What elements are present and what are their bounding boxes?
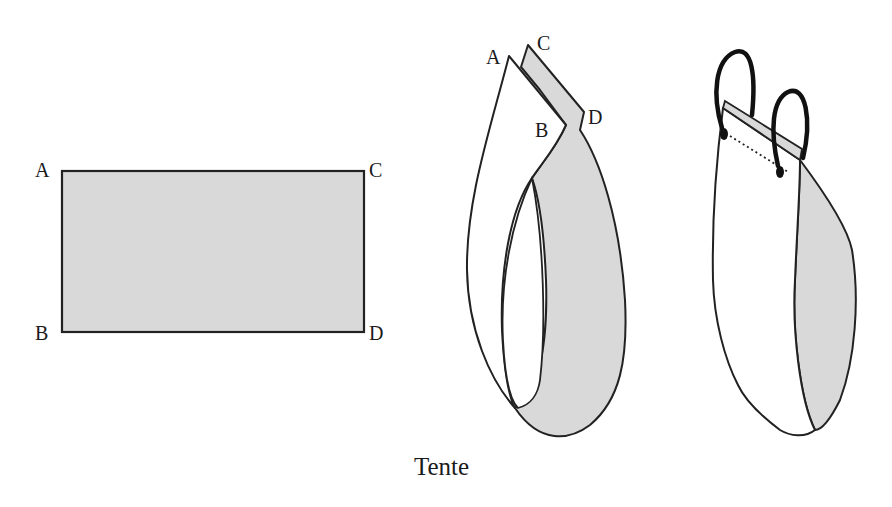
finished-bag — [713, 51, 856, 435]
label-d: D — [369, 322, 383, 344]
bag-grey-side — [794, 160, 855, 430]
folded-sheet: A B C D — [467, 32, 626, 436]
label-c: C — [537, 32, 550, 54]
label-b: B — [35, 322, 48, 344]
label-b: B — [535, 119, 548, 141]
flat-rectangle — [62, 171, 364, 332]
handle-left-knot — [720, 128, 728, 140]
label-a: A — [486, 46, 501, 68]
label-c: C — [369, 159, 382, 181]
label-d: D — [588, 106, 602, 128]
flat-sheet: A B C D — [35, 159, 383, 344]
figure-caption: Tente — [414, 453, 469, 480]
handle-right-knot — [776, 166, 784, 178]
tent-diagram: A B C D A B C D Tente — [0, 0, 892, 507]
label-a: A — [35, 159, 50, 181]
